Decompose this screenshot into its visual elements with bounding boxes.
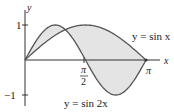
y-tick-label-neg1: −1 bbox=[4, 89, 16, 101]
y-axis-label: y bbox=[26, 2, 32, 13]
y-tick-label-1: 1 bbox=[16, 19, 22, 31]
pi-point-marker bbox=[144, 58, 147, 61]
x-tick-label-pi-half-numerator: π bbox=[81, 64, 87, 75]
area-between-curves-chart: y x 1 −1 π 2 π y = sin x y = sin 2x bbox=[0, 0, 174, 112]
x-axis-label: x bbox=[163, 55, 169, 66]
annotation-sin-2x: y = sin 2x bbox=[64, 97, 108, 109]
x-tick-label-pi-half-denominator: 2 bbox=[81, 76, 86, 87]
annotation-sin-x: y = sin x bbox=[132, 30, 171, 42]
x-tick-label-pi: π bbox=[146, 65, 152, 76]
